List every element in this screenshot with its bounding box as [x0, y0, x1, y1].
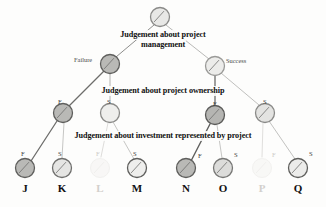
leaf-label-L: L — [90, 182, 110, 194]
internal-node-circle[interactable] — [206, 57, 225, 76]
leaf-label-N: N — [176, 182, 196, 194]
edge-leaf-K-S: S — [58, 150, 62, 157]
leaf-label-M: M — [127, 182, 147, 194]
leaf-node-circle[interactable] — [177, 159, 196, 178]
leaf-label-J: J — [15, 182, 35, 194]
band-investment: Judgement about investment represented b… — [0, 131, 326, 141]
edge-leaf-O-S: S — [234, 151, 238, 158]
internal-node-circle[interactable] — [101, 104, 120, 123]
node-success[interactable] — [206, 57, 225, 76]
leaf-node-circle[interactable] — [53, 159, 72, 178]
leaf-label-P: P — [252, 182, 272, 194]
node-l3-a[interactable] — [54, 104, 73, 123]
edge-leaf-M-S: S — [133, 150, 137, 157]
node-l3-d[interactable] — [256, 104, 275, 123]
leaf-P[interactable] — [253, 159, 272, 178]
edge-leaf-J-F: F — [21, 150, 25, 157]
band-ownership: Judgement about project ownership — [0, 86, 326, 96]
leaf-L[interactable] — [91, 159, 110, 178]
leaf-O[interactable] — [214, 159, 233, 178]
leaf-Q[interactable] — [289, 159, 308, 178]
internal-node-circle[interactable] — [54, 104, 73, 123]
leaf-label-K: K — [52, 182, 72, 194]
node-failure[interactable] — [101, 55, 120, 74]
leaf-N[interactable] — [177, 159, 196, 178]
leaf-J[interactable] — [16, 159, 35, 178]
branch-success: Success — [226, 57, 246, 64]
edge-leaf-L-F: F — [96, 150, 100, 157]
edge-c-O — [217, 125, 222, 158]
leaf-label-Q: Q — [288, 182, 308, 194]
band-investment-line-0: Judgement about investment represented b… — [74, 131, 253, 141]
leaf-K[interactable] — [53, 159, 72, 178]
edge-l2-left-F: F — [58, 98, 62, 105]
decision-tree-diagram: Judgement about projectmanagementJudgeme… — [0, 0, 326, 207]
edge-leaf-Q-S: S — [309, 150, 313, 157]
edge-a-J — [31, 121, 57, 161]
edge-leaf-N-F: F — [198, 152, 202, 159]
leaf-node-circle[interactable] — [289, 159, 308, 178]
leaf-node-circle[interactable] — [253, 159, 272, 178]
node-l3-c[interactable] — [206, 106, 225, 125]
band-ownership-line-0: Judgement about project ownership — [101, 86, 226, 96]
internal-node-circle[interactable] — [206, 106, 225, 125]
leaf-label-O: O — [213, 182, 233, 194]
band-management: Judgement about projectmanagement — [0, 30, 326, 50]
band-management-line-1: management — [140, 40, 186, 50]
leaf-node-circle[interactable] — [16, 159, 35, 178]
leaf-node-circle[interactable] — [128, 159, 147, 178]
leaf-node-circle[interactable] — [214, 159, 233, 178]
internal-node-circle[interactable] — [101, 55, 120, 74]
band-management-line-0: Judgement about project — [119, 30, 206, 40]
edge-leaf-P-F: F — [272, 151, 276, 158]
edge-l2-left-S: S — [107, 98, 111, 105]
node-l3-b[interactable] — [101, 104, 120, 123]
internal-node-circle[interactable] — [256, 104, 275, 123]
node-root[interactable] — [151, 8, 170, 27]
branch-failure: Failure — [74, 56, 92, 63]
leaf-node-circle[interactable] — [91, 159, 110, 178]
edge-l2-right-S: S — [263, 98, 267, 105]
leaf-M[interactable] — [128, 159, 147, 178]
internal-node-circle[interactable] — [151, 8, 170, 27]
edge-l2-right-F: F — [213, 100, 217, 107]
